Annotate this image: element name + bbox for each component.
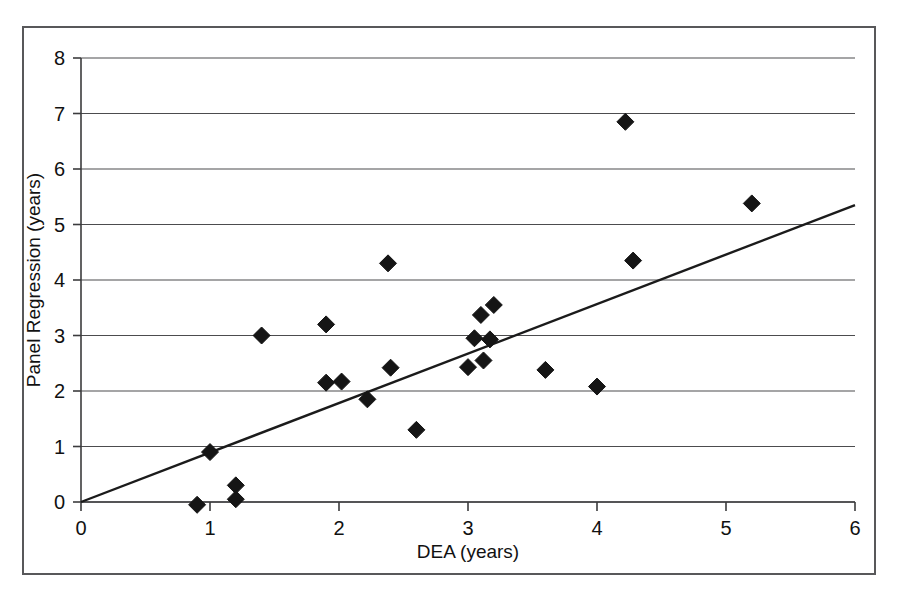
y-tick-label: 2 bbox=[54, 380, 65, 402]
data-point-marker bbox=[318, 374, 335, 391]
data-point-marker bbox=[472, 306, 489, 323]
x-tick-label: 1 bbox=[204, 517, 215, 539]
data-point-marker bbox=[617, 113, 634, 130]
x-tick-labels: 0123456 bbox=[75, 517, 860, 539]
data-point-marker bbox=[227, 491, 244, 508]
data-point-marker bbox=[382, 359, 399, 376]
y-tick-labels: 012345678 bbox=[54, 47, 65, 513]
y-tick-label: 3 bbox=[54, 325, 65, 347]
data-point-marker bbox=[189, 496, 206, 513]
data-point-markers bbox=[189, 113, 761, 513]
data-point-marker bbox=[408, 421, 425, 438]
scatter-plot: 012345678 0123456 DEA (years) Panel Regr… bbox=[0, 0, 900, 598]
y-tick-label: 4 bbox=[54, 269, 65, 291]
y-tick-label: 1 bbox=[54, 436, 65, 458]
y-tick-label: 8 bbox=[54, 47, 65, 69]
regression-trend-line bbox=[81, 205, 855, 502]
gridlines bbox=[81, 58, 855, 502]
data-point-marker bbox=[460, 359, 477, 376]
data-point-marker bbox=[743, 195, 760, 212]
figure-container: 012345678 0123456 DEA (years) Panel Regr… bbox=[0, 0, 900, 598]
x-tick-label: 3 bbox=[462, 517, 473, 539]
y-axis-title: Panel Regression (years) bbox=[23, 173, 44, 387]
data-point-marker bbox=[589, 378, 606, 395]
y-tick-label: 6 bbox=[54, 158, 65, 180]
y-tick-label: 7 bbox=[54, 103, 65, 125]
x-tick-label: 0 bbox=[75, 517, 86, 539]
data-point-marker bbox=[481, 331, 498, 348]
data-point-marker bbox=[380, 255, 397, 272]
x-tick-label: 2 bbox=[333, 517, 344, 539]
data-point-marker bbox=[475, 352, 492, 369]
data-point-marker bbox=[318, 316, 335, 333]
data-point-marker bbox=[537, 361, 554, 378]
x-tick-label: 6 bbox=[849, 517, 860, 539]
y-tick-label: 5 bbox=[54, 214, 65, 236]
y-tick-label: 0 bbox=[54, 491, 65, 513]
data-point-marker bbox=[485, 296, 502, 313]
x-axis-title: DEA (years) bbox=[417, 541, 519, 562]
data-point-marker bbox=[253, 327, 270, 344]
data-point-marker bbox=[333, 373, 350, 390]
data-point-marker bbox=[625, 252, 642, 269]
data-point-marker bbox=[466, 330, 483, 347]
tick-marks bbox=[73, 58, 855, 511]
x-tick-label: 4 bbox=[591, 517, 602, 539]
x-tick-label: 5 bbox=[720, 517, 731, 539]
